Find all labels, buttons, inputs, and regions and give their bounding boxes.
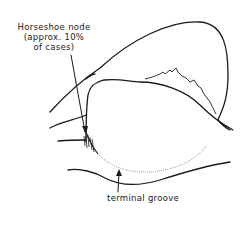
node-pointer-line <box>71 55 85 132</box>
horseshoe-node-label-line1: Horseshoe node <box>11 22 97 32</box>
inner-upper-contour <box>50 115 86 128</box>
horseshoe-node-label: Horseshoe node (approx. 10% of cases) <box>11 22 97 52</box>
terminal-groove-label: terminal groove <box>107 193 179 203</box>
horseshoe-node-label-line2: (approx. 10% <box>11 32 97 42</box>
groove-arrowhead <box>116 169 122 176</box>
node-arrowhead <box>82 126 88 134</box>
lower-ledge <box>58 140 86 141</box>
atrium-contour <box>86 79 233 142</box>
bottom-contour <box>68 162 230 184</box>
terminal-groove-dotted <box>98 145 207 172</box>
horseshoe-node-label-line3: of cases) <box>11 42 97 52</box>
